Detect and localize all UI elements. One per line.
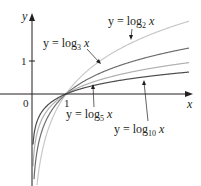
y-tick-label-1: 1	[21, 55, 27, 67]
x-axis-label: x	[186, 97, 193, 111]
label-log2: y = log2 x	[108, 14, 155, 30]
leader-log10-arrow-icon	[142, 80, 146, 85]
leader-log3	[87, 49, 99, 62]
leader-log5	[93, 86, 94, 107]
label-log10: y = log10 x	[114, 122, 165, 138]
log-functions-chart: y x 0 1 1 y = log2 x y = log3 x y = log5…	[0, 0, 201, 186]
label-log5: y = log5 x	[66, 107, 113, 123]
leader-log10	[144, 82, 148, 121]
leader-log2-arrow-icon	[129, 35, 133, 40]
label-log3: y = log3 x	[43, 36, 90, 52]
y-axis-arrow-icon	[29, 13, 35, 21]
y-axis-label: y	[21, 9, 28, 23]
origin-label: 0	[23, 97, 29, 109]
